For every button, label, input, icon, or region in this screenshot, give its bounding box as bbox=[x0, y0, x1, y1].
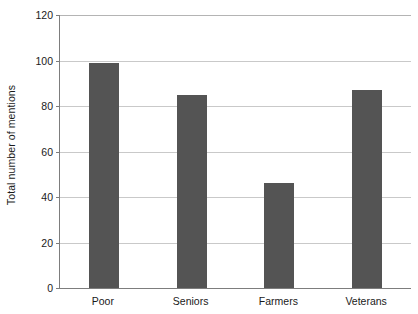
y-axis-title-text: Total number of mentions bbox=[5, 85, 17, 205]
bar bbox=[89, 63, 119, 288]
y-tick-mark bbox=[56, 288, 60, 289]
bar-slot bbox=[236, 15, 324, 288]
bar bbox=[177, 95, 207, 288]
bar-slot bbox=[148, 15, 236, 288]
plot-area: 020406080100120 bbox=[59, 15, 411, 289]
y-tick-label: 40 bbox=[41, 192, 60, 203]
y-tick-label: 20 bbox=[41, 237, 60, 248]
bars-group bbox=[60, 15, 411, 288]
bar-slot bbox=[323, 15, 411, 288]
bar bbox=[352, 90, 382, 288]
bar bbox=[264, 183, 294, 288]
x-axis-labels: PoorSeniorsFarmersVeterans bbox=[59, 290, 410, 312]
bar-chart: Total number of mentions 020406080100120… bbox=[0, 0, 418, 314]
y-tick-label: 60 bbox=[41, 146, 60, 157]
x-tick-label: Farmers bbox=[235, 290, 323, 307]
x-tick-label: Seniors bbox=[147, 290, 235, 307]
bar-slot bbox=[60, 15, 148, 288]
x-tick-label: Poor bbox=[59, 290, 147, 307]
x-tick-label: Veterans bbox=[322, 290, 410, 307]
y-tick-label: 100 bbox=[35, 55, 60, 66]
y-tick-label: 120 bbox=[35, 10, 60, 21]
y-tick-label: 80 bbox=[41, 101, 60, 112]
y-axis-title: Total number of mentions bbox=[0, 0, 22, 290]
